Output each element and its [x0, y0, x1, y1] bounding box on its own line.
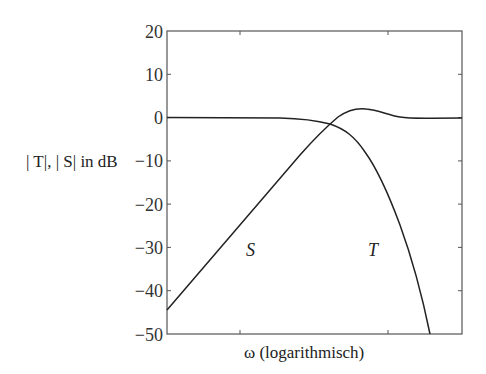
ytick-m10: −10 — [135, 151, 163, 171]
curve-t — [167, 118, 430, 335]
ytick-0: 0 — [154, 108, 163, 128]
ytick-m30: −30 — [135, 238, 163, 258]
plot-frame — [167, 31, 462, 334]
ytick-m20: −20 — [135, 195, 163, 215]
ytick-20: 20 — [145, 22, 163, 42]
ytick-10: 10 — [145, 65, 163, 85]
y-tick-labels: 20 10 0 −10 −20 −30 −40 −50 — [135, 22, 163, 345]
bode-magnitude-chart: 20 10 0 −10 −20 −30 −40 −50 | T|, | S| i… — [0, 0, 486, 374]
ytick-m40: −40 — [135, 281, 163, 301]
y-axis-label: | T|, | S| in dB — [26, 152, 118, 171]
curve-label-t: T — [368, 240, 380, 260]
x-axis-label: ω (logarithmisch) — [244, 343, 364, 362]
ytick-m50: −50 — [135, 325, 163, 345]
x-ticks — [240, 31, 388, 334]
curve-label-s: S — [246, 240, 255, 260]
